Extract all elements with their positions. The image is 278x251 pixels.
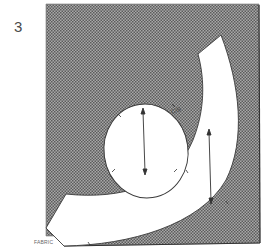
fabric-label: FABRIC	[34, 239, 53, 245]
fabric-layout-diagram: C/B	[0, 0, 278, 251]
